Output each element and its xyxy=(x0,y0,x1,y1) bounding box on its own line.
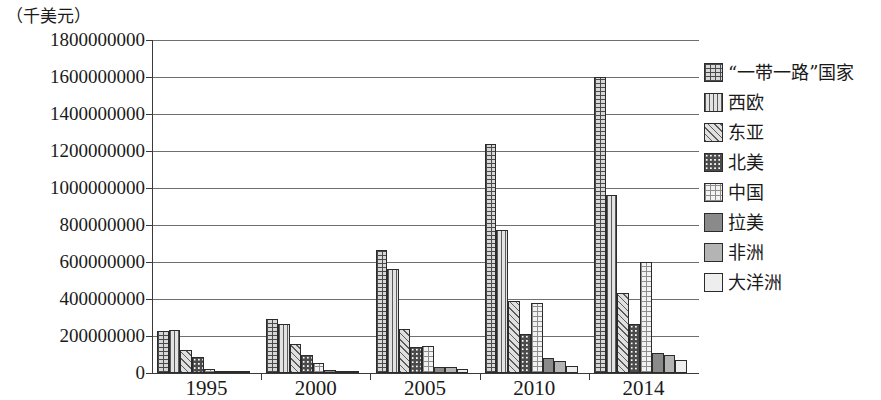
legend-swatch-icon xyxy=(704,213,723,232)
legend-swatch-icon xyxy=(704,123,723,142)
bar xyxy=(215,371,227,373)
legend-item[interactable]: 非洲 xyxy=(704,237,879,267)
legend-item-label: 中国 xyxy=(728,183,764,202)
y-axis-tick-label: 1600000000 xyxy=(6,67,152,86)
bar xyxy=(445,367,457,373)
legend-swatch-icon xyxy=(704,153,723,172)
legend-item-label: 北美 xyxy=(728,153,764,172)
legend-item-label: 大洋洲 xyxy=(728,273,782,292)
bar-group xyxy=(594,40,687,373)
bar xyxy=(457,369,469,373)
bar xyxy=(554,361,566,373)
legend-swatch-icon xyxy=(704,243,723,262)
bar xyxy=(543,358,555,373)
plot-area xyxy=(152,40,699,374)
bar xyxy=(387,269,399,373)
x-axis-tick-label: 2010 xyxy=(480,378,589,399)
legend-swatch-icon xyxy=(704,63,723,82)
legend-item-label: 东亚 xyxy=(728,123,764,142)
bar xyxy=(313,363,325,373)
y-axis-tick-label: 600000000 xyxy=(6,252,152,271)
y-axis-unit-caption: （千美元） xyxy=(6,2,91,27)
bar xyxy=(301,355,313,374)
bar-group xyxy=(485,40,578,373)
x-axis-tick-label: 2000 xyxy=(261,378,370,399)
bar xyxy=(566,366,578,373)
y-axis-tick-label: 200000000 xyxy=(6,326,152,345)
legend-item[interactable]: “一带一路”国家 xyxy=(704,57,879,87)
bar xyxy=(606,195,618,373)
legend-item-label: 非洲 xyxy=(728,243,764,262)
bar xyxy=(508,301,520,373)
y-axis-tick-label: 1000000000 xyxy=(6,178,152,197)
bar xyxy=(348,371,360,373)
bar xyxy=(652,353,664,373)
bar-group xyxy=(266,40,359,373)
bar xyxy=(227,371,239,373)
bar xyxy=(157,331,169,373)
bar xyxy=(204,369,216,373)
bar xyxy=(266,319,278,373)
bar-group xyxy=(157,40,250,373)
x-axis-tick-label: 1995 xyxy=(152,378,261,399)
bar xyxy=(169,330,181,373)
bar xyxy=(594,77,606,373)
legend-item[interactable]: 北美 xyxy=(704,147,879,177)
x-axis-tick-label: 2005 xyxy=(370,378,479,399)
bar xyxy=(496,230,508,373)
bar xyxy=(531,303,543,373)
bar xyxy=(278,324,290,373)
legend-swatch-icon xyxy=(704,93,723,112)
legend-swatch-icon xyxy=(704,273,723,292)
bar xyxy=(324,370,336,373)
legend-item[interactable]: 大洋洲 xyxy=(704,267,879,297)
bar xyxy=(434,367,446,373)
x-axis-tick-label: 2014 xyxy=(589,378,698,399)
bar xyxy=(617,293,629,373)
bar xyxy=(399,329,411,373)
y-axis-ticks: 1800000000160000000014000000001200000000… xyxy=(0,40,152,373)
bar xyxy=(290,344,302,373)
chart-legend: “一带一路”国家西欧东亚北美中国拉美非洲大洋洲 xyxy=(704,57,879,297)
legend-item[interactable]: 东亚 xyxy=(704,117,879,147)
bar xyxy=(376,250,388,373)
y-axis-tick-label: 800000000 xyxy=(6,215,152,234)
legend-item-label: 西欧 xyxy=(728,93,764,112)
bar xyxy=(675,360,687,373)
bar-chart: （千美元） 1800000000160000000014000000001200… xyxy=(0,0,881,400)
bar xyxy=(180,350,192,373)
bar xyxy=(192,357,204,373)
legend-item-label: “一带一路”国家 xyxy=(728,63,854,82)
bar xyxy=(629,324,641,373)
bar xyxy=(422,346,434,373)
bar xyxy=(238,371,250,373)
legend-item[interactable]: 中国 xyxy=(704,177,879,207)
legend-item[interactable]: 拉美 xyxy=(704,207,879,237)
bar xyxy=(520,334,532,373)
y-axis-tick-label: 1400000000 xyxy=(6,104,152,123)
legend-item[interactable]: 西欧 xyxy=(704,87,879,117)
bar xyxy=(640,262,652,373)
bar xyxy=(336,371,348,373)
y-axis-tick-label: 0 xyxy=(6,363,152,382)
y-axis-tick-label: 400000000 xyxy=(6,289,152,308)
legend-item-label: 拉美 xyxy=(728,213,764,232)
legend-swatch-icon xyxy=(704,183,723,202)
bar xyxy=(664,355,676,373)
bar xyxy=(410,347,422,373)
y-axis-tick-label: 1800000000 xyxy=(6,30,152,49)
bar xyxy=(485,144,497,373)
bar-group xyxy=(376,40,469,373)
y-axis-tick-label: 1200000000 xyxy=(6,141,152,160)
